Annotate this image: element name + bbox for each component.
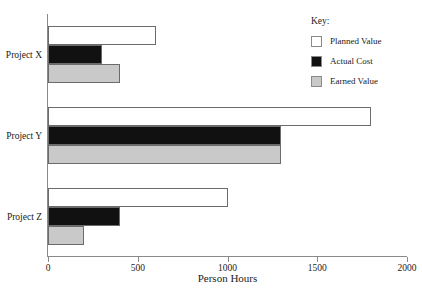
y-axis-label: Project Y (6, 130, 42, 141)
legend-item: Planned Value (311, 31, 419, 51)
legend-title: Key: (311, 16, 419, 27)
y-axis-label: Project Z (7, 211, 42, 222)
legend-item-label: Earned Value (330, 76, 378, 87)
x-tick (317, 257, 318, 262)
legend: Key: Planned ValueActual CostEarned Valu… (311, 16, 419, 91)
legend-item-label: Actual Cost (330, 56, 373, 67)
x-tick (138, 257, 139, 262)
bar-actual (48, 207, 120, 226)
legend-swatch-earned (311, 76, 322, 87)
bar-actual (48, 126, 281, 145)
x-tick (48, 257, 49, 262)
bar-earned (48, 145, 281, 164)
bar-group (48, 188, 407, 245)
bar-earned (48, 226, 84, 245)
bar-planned (48, 107, 371, 126)
legend-item-label: Planned Value (330, 36, 382, 47)
y-axis-category-labels: Project XProject YProject Z (0, 0, 44, 291)
x-axis-title: Person Hours (48, 272, 407, 285)
x-tick (228, 257, 229, 262)
legend-items: Planned ValueActual CostEarned Value (311, 31, 419, 91)
legend-swatch-actual (311, 56, 322, 67)
legend-item: Actual Cost (311, 51, 419, 71)
bar-earned (48, 64, 120, 83)
legend-swatch-planned (311, 36, 322, 47)
bar-planned (48, 188, 228, 207)
bar-chart: Project XProject YProject Z 050010001500… (0, 0, 422, 291)
x-tick (407, 257, 408, 262)
bar-group (48, 107, 407, 164)
y-axis-label: Project X (6, 49, 42, 60)
bar-actual (48, 45, 102, 64)
bar-planned (48, 26, 156, 45)
legend-item: Earned Value (311, 71, 419, 91)
